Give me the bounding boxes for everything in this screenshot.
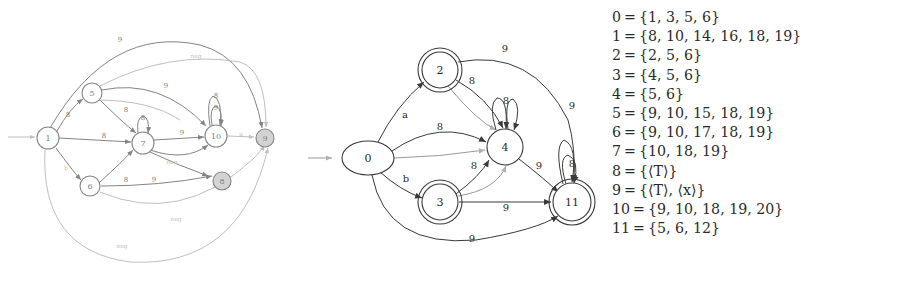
state-set-legend: 0={1, 3, 5, 6}1={8, 10, 14, 16, 18, 19}2… [612,8,910,238]
state-node[interactable]: 7 [132,132,154,154]
edge-label: 8 [437,121,443,132]
edge-label: 9 [569,100,575,111]
edge-2-4-8 [456,80,503,128]
edge-label: 9 [214,104,218,112]
edge-label: neg [166,158,177,166]
legend-row: 6={9, 10, 17, 18, 19} [612,123,910,142]
state-node-label: 5 [89,89,94,98]
legend-set: {1, 3, 5, 6} [639,9,720,25]
edge-label: 8 [102,132,106,140]
legend-set: {9, 10, 18, 19, 20} [648,201,783,217]
legend-index: 2 [612,47,621,63]
edge-label: 9 [536,160,542,171]
edge-label: b [64,164,68,171]
legend-equals: = [621,163,639,179]
figure-page: 9neg98888899anegb89negneg 15671089 [0,0,910,283]
edge-label: 8 [471,160,477,171]
edge-label: neg [190,52,201,60]
edge-1-7 [59,138,131,142]
state-node[interactable]: 0 [342,141,394,175]
legend-set: {5, 6} [639,86,684,102]
state-node[interactable]: 3 [418,180,462,224]
legend-index: 4 [612,86,621,102]
edge-label: 8 [569,158,575,169]
edge-7-10 [154,137,204,140]
legend-index: 11 [612,220,630,236]
edge-label: 9 [152,176,156,184]
state-node[interactable]: 11 [549,179,595,225]
edge-0-11-9 [372,175,558,241]
edge-5-7-faint [96,100,180,120]
state-node-label: 7 [140,139,145,148]
state-node-label: 2 [437,64,444,77]
legend-row: 5={9, 10, 15, 18, 19} [612,104,910,123]
edge-label: 9 [164,82,168,90]
edge-0-3-b [380,172,422,198]
state-node[interactable]: 6 [80,176,100,196]
legend-set: {⟨T⟩, ⟨x⟩} [639,182,706,198]
edge-label: 8 [503,95,509,106]
edge-label: neg [116,242,127,250]
legend-index: 5 [612,105,621,121]
right-automaton-svg: ab8898988999 023411 [300,0,600,283]
edge-label: b [403,173,409,184]
edge-6-8 [101,176,212,186]
edge-7-8-neg [150,152,208,176]
legend-equals: = [621,143,639,159]
legend-index: 1 [612,28,621,44]
legend-index: 3 [612,67,621,83]
state-node-label: 0 [365,152,372,165]
state-node[interactable]: 5 [82,83,102,103]
legend-row: 7={10, 18, 19} [612,142,910,161]
legend-equals: = [621,28,639,44]
legend-equals: = [621,47,639,63]
legend-equals: = [621,182,639,198]
edge-label: a [402,109,408,120]
left-automaton-diagram: 9neg98888899anegb89negneg 15671089 [0,0,310,283]
state-node-label: 9 [262,134,267,143]
edge-label: 8 [214,92,218,100]
edge-label: neg [170,215,181,223]
edge-label: 9 [469,233,475,244]
legend-set: {9, 10, 15, 18, 19} [639,105,774,121]
state-node[interactable]: 10 [205,125,227,147]
state-node-label: 1 [45,134,50,143]
legend-equals: = [621,105,639,121]
legend-set: {9, 10, 17, 18, 19} [639,124,774,140]
legend-index: 10 [612,201,630,217]
state-node[interactable]: 2 [418,48,462,92]
edge-label: 8 [66,111,70,119]
edge-1-9-neg-bottom [45,148,268,262]
edge-5-7 [99,99,136,133]
legend-equals: = [621,124,639,140]
legend-equals: = [630,220,648,236]
edge-label: 8 [141,114,145,122]
legend-row: 3={4, 5, 6} [612,66,910,85]
edge-1-9-top [50,42,262,128]
legend-row: 11={5, 6, 12} [612,219,910,238]
legend-index: 7 [612,143,621,159]
edge-label: 8 [469,75,475,86]
legend-set: {4, 5, 6} [639,67,702,83]
legend-row: 10={9, 10, 18, 19, 20} [612,200,910,219]
legend-set: {10, 18, 19} [639,143,729,159]
edge-0-4-faint [394,150,485,158]
edge-label: a [239,130,243,137]
legend-equals: = [621,67,639,83]
legend-row: 9={⟨T⟩, ⟨x⟩} [612,181,910,200]
state-node[interactable]: 1 [37,127,59,149]
edge-2-4-faint [448,86,496,130]
legend-row: 1={8, 10, 14, 16, 18, 19} [612,27,910,46]
edge-label: 8 [124,106,128,114]
edge-label: 9 [502,43,508,54]
legend-row: 0={1, 3, 5, 6} [612,8,910,27]
state-node[interactable]: 9 [256,129,274,147]
state-node[interactable]: 4 [487,129,523,165]
edge-label: 9 [503,202,509,213]
edge-6-9-neg [100,145,264,204]
edge-5-9-neg [100,59,266,127]
state-node-label: 4 [502,141,509,154]
state-node[interactable]: 8 [213,172,231,190]
legend-equals: = [621,9,639,25]
edge-1-6 [56,148,81,180]
